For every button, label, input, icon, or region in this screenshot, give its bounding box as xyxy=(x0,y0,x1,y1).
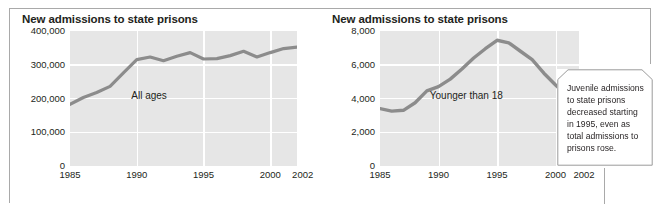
callout-text: Juvenile admissions to state prisons dec… xyxy=(567,82,646,155)
x-tick-label: 1990 xyxy=(126,169,147,180)
chart-title-younger-than-18: New admissions to state prisons xyxy=(332,12,607,26)
frame-right-upper-rule xyxy=(650,8,651,64)
y-tick-label: 300,000 xyxy=(31,60,65,70)
figure-root: New admissions to state prisons 400,000 … xyxy=(0,0,661,210)
x-tick-label: 1985 xyxy=(369,169,390,180)
x-tick-label: 2000 xyxy=(260,169,281,180)
x-tick-label: 1985 xyxy=(59,169,80,180)
x-tick-label: 1990 xyxy=(428,169,449,180)
plot-area-all-ages: All ages xyxy=(70,31,297,166)
x-tick-label: 2002 xyxy=(573,169,594,180)
chart-title-all-ages: New admissions to state prisons xyxy=(22,12,297,26)
plot-wrap-all-ages: 400,000 300,000 200,000 100,000 0 All ag… xyxy=(22,31,297,186)
y-tick-label: 200,000 xyxy=(31,94,65,104)
y-axis-all-ages: 400,000 300,000 200,000 100,000 0 xyxy=(22,31,68,166)
y-tick-label: 6,000 xyxy=(351,60,375,70)
y-tick-label: 400,000 xyxy=(31,26,65,36)
y-tick-label: 2,000 xyxy=(351,127,375,137)
x-tick-label: 1995 xyxy=(486,169,507,180)
x-axis-all-ages: 1985 1990 1995 2000 2002 xyxy=(70,169,297,185)
plot-area-younger-than-18: Younger than 18 xyxy=(380,31,579,166)
x-tick-label: 2002 xyxy=(292,169,313,180)
series-annotation-younger-than-18: Younger than 18 xyxy=(430,90,503,101)
callout-box: Juvenile admissions to state prisons dec… xyxy=(557,69,653,166)
x-tick-label: 2000 xyxy=(545,169,566,180)
chart-all-ages: New admissions to state prisons 400,000 … xyxy=(22,12,297,198)
frame-left-rule xyxy=(9,8,10,203)
x-axis-younger-than-18: 1985 1990 1995 2000 2002 xyxy=(380,169,579,185)
frame-top-rule xyxy=(9,8,651,9)
y-tick-label: 8,000 xyxy=(351,26,375,36)
y-tick-label: 4,000 xyxy=(351,94,375,104)
y-axis-younger-than-18: 8,000 6,000 4,000 2,000 0 xyxy=(332,31,378,166)
series-line-all-ages xyxy=(70,31,297,166)
y-tick-label: 100,000 xyxy=(31,127,65,137)
x-tick-label: 1995 xyxy=(193,169,214,180)
series-annotation-all-ages: All ages xyxy=(131,90,167,101)
